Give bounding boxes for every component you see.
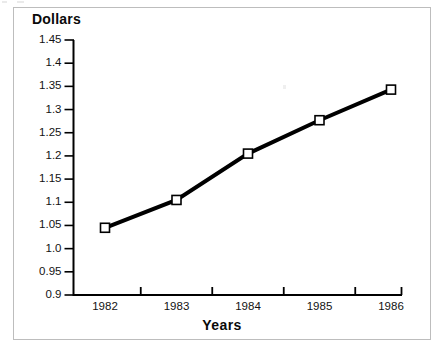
x-tick-label: 1986 [361,300,421,312]
data-point-marker [101,223,110,232]
y-tick-label: 0.95 [20,265,62,277]
y-tick-label: 1.0 [20,242,62,254]
y-tick-label: 1.15 [20,172,62,184]
x-tick-label: 1985 [290,300,350,312]
y-tick-label: 1.1 [20,195,62,207]
y-tick-label: 1.45 [20,33,62,45]
y-tick-label: 1.35 [20,79,62,91]
x-axis-title: Years [0,317,444,333]
data-point-marker [244,149,253,158]
x-tick-label: 1982 [75,300,135,312]
data-point-marker [172,195,181,204]
y-tick-label: 1.2 [20,149,62,161]
x-tick-marks [141,287,402,295]
chart-figure: Dollars 0.90.951.01.051.11.151.21.251.31… [0,0,444,350]
y-tick-label: 1.4 [20,56,62,68]
y-tick-label: 0.9 [20,288,62,300]
data-point-marker [387,85,396,94]
data-point-marker [315,116,324,125]
x-tick-label: 1983 [147,300,207,312]
plot-area [0,0,444,350]
x-tick-label: 1984 [218,300,278,312]
y-tick-label: 1.05 [20,218,62,230]
y-tick-label: 1.3 [20,103,62,115]
y-tick-label: 1.25 [20,126,62,138]
